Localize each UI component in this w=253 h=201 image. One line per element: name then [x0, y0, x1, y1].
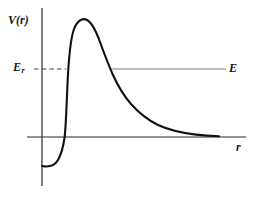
y-axis-label: V(r) [8, 14, 29, 26]
barrier-energy-label: Er [13, 61, 24, 73]
barrier-energy-label-base: E [13, 60, 21, 74]
x-axis-label: r [236, 141, 241, 153]
energy-level-label: E [229, 62, 237, 74]
plot-area [0, 0, 253, 201]
potential-curve [42, 19, 219, 166]
barrier-energy-label-subscript: r [22, 66, 25, 75]
potential-energy-figure: V(r) Er E r [0, 0, 253, 201]
